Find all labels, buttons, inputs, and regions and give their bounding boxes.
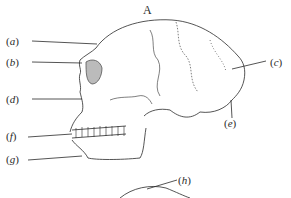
label-c: (c) [270,56,282,68]
label-a: (a) [6,35,19,47]
mandible [72,128,146,160]
label-b: (b) [6,56,19,68]
fragment-outline [120,186,190,198]
skull-drawing [0,0,291,198]
label-f: (f) [6,130,16,142]
label-e: (e) [224,117,236,129]
label-h: (h) [178,174,191,186]
label-g: (g) [6,153,19,165]
label-d: (d) [6,93,19,105]
orbit [86,60,102,84]
cranium-outline [96,20,245,117]
